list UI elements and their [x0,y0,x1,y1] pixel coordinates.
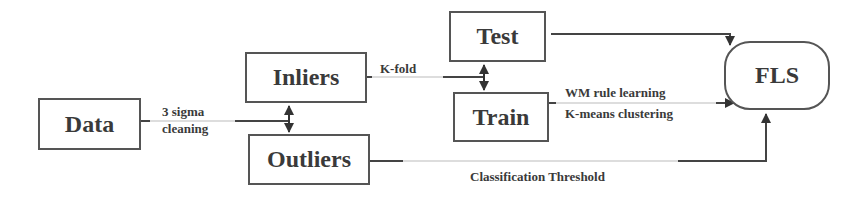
edge-label-classification-threshold: Classification Threshold [470,169,605,185]
edge-label-k-fold: K-fold [380,61,416,77]
node-outliers: Outliers [248,134,370,185]
edge-label-cleaning: cleaning [162,121,208,137]
node-inliers: Inliers [245,52,367,103]
node-inliers-label: Inliers [273,64,340,91]
node-test-label: Test [477,23,519,50]
edge-label-k-means-clustering: K-means clustering [565,106,673,122]
node-data: Data [38,98,141,150]
node-data-label: Data [65,111,114,138]
node-outliers-label: Outliers [267,146,351,173]
node-train: Train [453,92,549,142]
node-train-label: Train [473,104,530,131]
node-fls-label: FLS [755,62,799,89]
edge-label-3-sigma: 3 sigma [162,104,204,120]
node-fls: FLS [724,41,830,110]
node-test: Test [449,11,546,62]
edge-label-wm-rule-learning: WM rule learning [565,85,665,101]
